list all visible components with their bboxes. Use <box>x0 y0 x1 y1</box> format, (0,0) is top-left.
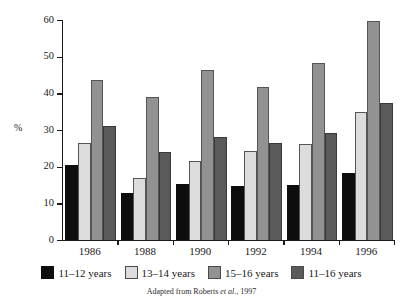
bar-1988-series-3 <box>159 152 172 240</box>
source-attribution: Adapted from Roberts et al., 1997 <box>0 287 403 296</box>
x-tick-label-1986: 1986 <box>60 245 120 257</box>
legend-item-1[interactable]: 13–14 years <box>125 266 195 279</box>
y-tick-label-0: 0 <box>24 235 54 246</box>
bar-1996-series-1 <box>355 112 368 240</box>
bar-1992-series-0 <box>231 186 244 240</box>
x-tick-label-1990: 1990 <box>170 245 230 257</box>
bar-1986-series-1 <box>78 143 91 240</box>
x-tick-label-1988: 1988 <box>115 245 175 257</box>
y-tick-label-10: 10 <box>24 198 54 209</box>
bar-1988-series-2 <box>146 97 159 240</box>
bar-1986-series-2 <box>91 80 104 240</box>
bar-group-bars <box>176 20 226 240</box>
legend-item-0[interactable]: 11–12 years <box>41 266 111 279</box>
bar-1996-series-3 <box>380 103 393 240</box>
legend-item-2[interactable]: 15–16 years <box>208 266 278 279</box>
y-axis-title: % <box>14 122 22 133</box>
bar-group-bars <box>342 20 392 240</box>
chart-legend: 11–12 years13–14 years15–16 years11–16 y… <box>0 266 403 279</box>
bar-1986-series-0 <box>65 165 78 240</box>
attribution-prefix: Adapted from Roberts <box>147 287 221 296</box>
bar-1990-series-0 <box>176 184 189 240</box>
bar-1992-series-2 <box>257 87 270 240</box>
bar-1986-series-3 <box>103 126 116 240</box>
bar-1994-series-3 <box>325 133 338 240</box>
x-tick-label-1996: 1996 <box>336 245 396 257</box>
bar-1996-series-2 <box>367 21 380 240</box>
medium-gray-swatch-icon <box>208 266 221 279</box>
x-tick-label-1994: 1994 <box>281 245 341 257</box>
legend-label-1: 13–14 years <box>142 267 195 279</box>
bar-1994-series-1 <box>299 144 312 240</box>
bar-group-bars <box>287 20 337 240</box>
bar-group-bars <box>231 20 281 240</box>
chart-figure: % 0102030405060 198619881990199219941996… <box>0 0 403 308</box>
y-tick-label-30: 30 <box>24 125 54 136</box>
legend-item-3[interactable]: 11–16 years <box>291 266 361 279</box>
bar-1990-series-2 <box>201 70 214 240</box>
attribution-suffix: , 1997 <box>236 287 256 296</box>
black-swatch-icon <box>41 266 54 279</box>
bar-1994-series-2 <box>312 63 325 240</box>
light-gray-swatch-icon <box>125 266 138 279</box>
legend-label-3: 11–16 years <box>308 267 361 279</box>
y-tick-label-50: 50 <box>24 51 54 62</box>
y-tick-label-40: 40 <box>24 88 54 99</box>
bar-group-bars <box>121 20 171 240</box>
attribution-italic: et al. <box>220 287 236 296</box>
x-tick-label-1992: 1992 <box>226 245 286 257</box>
bar-1990-series-1 <box>189 161 202 240</box>
bar-group-bars <box>65 20 115 240</box>
bar-1988-series-1 <box>133 178 146 240</box>
bar-1996-series-0 <box>342 173 355 240</box>
bar-1992-series-3 <box>269 143 282 240</box>
y-tick-label-20: 20 <box>24 161 54 172</box>
bar-1990-series-3 <box>214 137 227 240</box>
bar-1994-series-0 <box>287 185 300 240</box>
plot-area <box>63 20 393 240</box>
bar-1992-series-1 <box>244 151 257 240</box>
dark-gray-swatch-icon <box>291 266 304 279</box>
y-tick-label-60: 60 <box>24 15 54 26</box>
y-tick-0 <box>57 240 63 241</box>
bar-1988-series-0 <box>121 193 134 240</box>
legend-label-2: 15–16 years <box>225 267 278 279</box>
legend-label-0: 11–12 years <box>58 267 111 279</box>
